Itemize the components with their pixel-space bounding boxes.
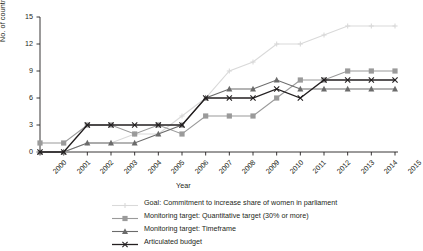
legend-key-square-icon bbox=[112, 210, 138, 221]
legend-item: Monitoring target: Timeframe bbox=[112, 222, 337, 235]
legend-item: Monitoring target: Quantitative target (… bbox=[112, 209, 337, 222]
legend-item: Articulated budget bbox=[112, 235, 337, 248]
legend-label: Monitoring target: Quantitative target (… bbox=[144, 211, 309, 220]
legend-label: Goal: Commitment to increase share of wo… bbox=[144, 198, 337, 207]
legend-item: Goal: Commitment to increase share of wo… bbox=[112, 196, 337, 209]
y-tick-label: 15 bbox=[11, 12, 33, 21]
chart-legend: Goal: Commitment to increase share of wo… bbox=[112, 196, 337, 248]
legend-label: Monitoring target: Timeframe bbox=[144, 224, 236, 233]
y-tick-label: 6 bbox=[11, 93, 33, 102]
y-tick-label: 3 bbox=[11, 120, 33, 129]
legend-label: Articulated budget bbox=[144, 237, 202, 246]
y-tick-label: 9 bbox=[11, 66, 33, 75]
legend-key-plus-icon bbox=[112, 197, 138, 208]
y-tick-label: 12 bbox=[11, 39, 33, 48]
x-tick-label: 2015 bbox=[406, 158, 423, 176]
legend-key-triangle-icon bbox=[112, 223, 138, 234]
y-tick-label: 0 bbox=[11, 147, 33, 156]
legend-key-x-icon bbox=[112, 236, 138, 247]
